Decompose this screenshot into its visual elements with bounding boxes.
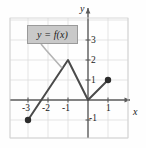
endpoint-dot-left: [25, 117, 31, 123]
y-tick-2: 2: [91, 56, 96, 66]
x-axis-label: x: [133, 107, 137, 117]
y-tick-3: 3: [91, 36, 96, 46]
x-tick-neg3: -3: [22, 104, 30, 114]
endpoint-dot-right: [105, 77, 111, 83]
x-tick-neg2: -2: [42, 104, 50, 114]
y-tick-1: 1: [91, 76, 96, 86]
function-graph-figure: y = f(x) y x 3 2 1 -1 -3 -2 -1 1: [0, 0, 146, 148]
y-axis-label: y: [80, 4, 84, 14]
function-label-callout: y = f(x): [27, 25, 78, 44]
y-tick-neg1: -1: [89, 114, 97, 124]
plot-canvas: [0, 0, 146, 148]
function-label-text: y = f(x): [37, 30, 68, 40]
x-tick-1: 1: [106, 104, 111, 114]
x-tick-neg1: -1: [62, 104, 70, 114]
